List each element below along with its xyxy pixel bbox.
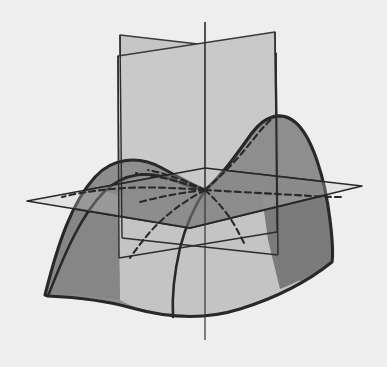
vertical-plane-front-left-edge <box>118 56 119 258</box>
saddle-surface-figure <box>0 0 387 367</box>
saddle-point <box>204 189 206 191</box>
figure-canvas <box>0 0 387 367</box>
